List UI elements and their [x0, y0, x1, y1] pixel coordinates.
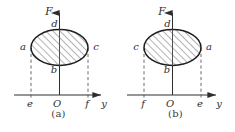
label-b-b: b — [164, 64, 170, 75]
label-c-a: c — [93, 41, 99, 52]
figure-panel-b: F d c a b f O e y (b) — [117, 0, 234, 132]
label-b-a: b — [51, 64, 57, 75]
figure-panel-a: F d a c b e O f y (a) — [0, 0, 117, 132]
label-a-a: a — [20, 41, 26, 52]
caption-panel-a: (a) — [0, 108, 117, 119]
label-d-a: d — [51, 18, 57, 29]
label-F-a: F — [44, 5, 53, 17]
label-F-b: F — [157, 5, 166, 17]
caption-panel-b: (b) — [117, 108, 234, 119]
label-d-b: d — [164, 18, 170, 29]
label-c-b: c — [133, 41, 139, 52]
figure-root: F d a c b e O f y (a) — [0, 0, 235, 132]
label-a-b: a — [206, 41, 212, 52]
